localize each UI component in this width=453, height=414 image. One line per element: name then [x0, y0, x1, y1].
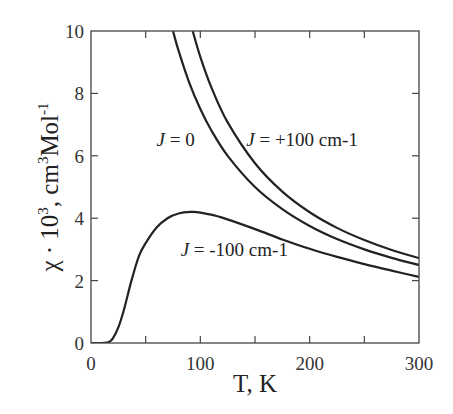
- y-tick-label: 10: [65, 21, 84, 42]
- x-tick-label: 200: [295, 353, 324, 374]
- series-label-2: J = -100 cm-1: [181, 239, 288, 260]
- y-axis-title-exp1: 3: [35, 207, 51, 215]
- x-axis-title: T, K: [233, 370, 277, 397]
- y-axis-title-exp2: 3: [35, 157, 51, 165]
- x-tick-label: 300: [405, 353, 434, 374]
- y-axis-title-middle: , cm: [36, 164, 63, 208]
- y-axis-title-prefix: χ · 10: [36, 215, 63, 273]
- y-tick-label: 6: [75, 146, 85, 167]
- annotations: J = 0J = +100 cm-1J = -100 cm-1: [157, 129, 358, 259]
- y-tick-label: 2: [75, 271, 85, 292]
- y-axis-title: χ · 103, cm3Mol-1: [35, 102, 63, 272]
- series-label-0: J = 0: [157, 129, 195, 150]
- series-line-2: [91, 212, 419, 343]
- series-label-1: J = +100 cm-1: [246, 129, 358, 150]
- y-tick-label: 8: [75, 83, 85, 104]
- y-tick-label: 0: [75, 333, 85, 354]
- series-label-value: = 0: [165, 129, 195, 150]
- y-axis-title-exp3: -1: [35, 102, 51, 115]
- chart: 01002003000246810 J = 0J = +100 cm-1J = …: [0, 0, 453, 414]
- y-tick-label: 4: [75, 208, 85, 229]
- x-tick-label: 0: [86, 353, 96, 374]
- curves: [91, 31, 419, 343]
- series-label-value: = +100 cm-1: [255, 129, 358, 150]
- y-axis-title-suffix: Mol: [36, 115, 63, 157]
- x-tick-label: 100: [186, 353, 215, 374]
- series-label-value: = -100 cm-1: [189, 239, 288, 260]
